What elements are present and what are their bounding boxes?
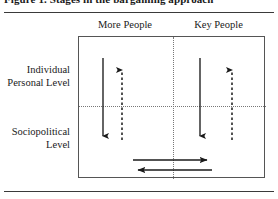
column-header-key-people: Key People xyxy=(172,19,265,30)
figure-container: Figure 1. Stages in the bargaining appro… xyxy=(0,0,278,199)
figure-title-text: Figure 1. Stages in the bargaining appro… xyxy=(4,0,214,5)
row-label-sociopolitical-level: Sociopolitical Level xyxy=(0,126,70,151)
column-header-more-people: More People xyxy=(78,19,172,30)
row-label-individual-line2: Personal Level xyxy=(0,77,70,90)
row-label-individual-line1: Individual xyxy=(0,64,70,77)
figure-title-clipped: Figure 1. Stages in the bargaining appro… xyxy=(0,0,278,11)
row-label-individual-personal-level: Individual Personal Level xyxy=(0,64,70,89)
rule-top xyxy=(4,12,274,13)
row-label-sociopolitical-line2: Level xyxy=(0,139,70,152)
matrix-box xyxy=(78,36,265,178)
rule-bottom xyxy=(4,191,274,192)
divider-vertical-dotted xyxy=(173,37,174,179)
row-label-sociopolitical-line1: Sociopolitical xyxy=(0,126,70,139)
